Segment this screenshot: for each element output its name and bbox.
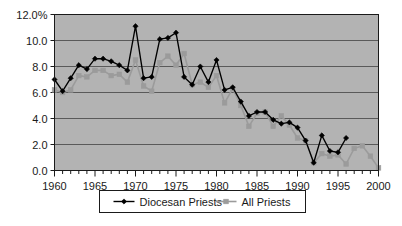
data-point-marker xyxy=(93,68,98,73)
legend-label: Diocesan Priests xyxy=(140,196,223,208)
x-tick-label: 1970 xyxy=(123,180,147,192)
y-tick-label: 12.0% xyxy=(16,9,47,21)
x-tick-label: 1985 xyxy=(245,180,269,192)
chart-container: 12.0%10.08.06.04.02.00.0 196019651970197… xyxy=(0,0,402,226)
data-point-marker xyxy=(352,146,357,151)
y-tick-label: 0.0 xyxy=(32,165,47,177)
line-chart: 12.0%10.08.06.04.02.00.0 196019651970197… xyxy=(0,0,402,226)
data-point-marker xyxy=(149,89,154,94)
y-tick-label: 2.0 xyxy=(32,139,47,151)
x-tick-label: 1960 xyxy=(42,180,66,192)
data-point-marker xyxy=(344,162,349,167)
y-tick-label: 8.0 xyxy=(32,61,47,73)
y-tick-label: 10.0 xyxy=(26,35,47,47)
x-tick-label: 1995 xyxy=(326,180,350,192)
data-point-marker xyxy=(85,75,90,80)
data-point-marker xyxy=(328,154,333,159)
y-tick-label: 6.0 xyxy=(32,87,47,99)
x-tick-label: 1965 xyxy=(83,180,107,192)
x-tick-label: 1975 xyxy=(164,180,188,192)
data-point-marker xyxy=(198,80,203,85)
data-point-marker xyxy=(68,88,73,93)
y-tick-label: 4.0 xyxy=(32,113,47,125)
data-point-marker xyxy=(295,136,300,141)
data-point-marker xyxy=(141,84,146,89)
data-point-marker xyxy=(77,73,82,78)
data-point-marker xyxy=(279,114,284,119)
data-point-marker xyxy=(368,154,373,159)
data-point-marker xyxy=(101,68,106,73)
data-point-marker xyxy=(133,58,138,63)
x-tick-label: 1990 xyxy=(285,180,309,192)
data-point-marker xyxy=(271,124,276,129)
data-point-marker xyxy=(117,72,122,77)
data-point-marker xyxy=(224,199,229,204)
data-point-marker xyxy=(125,80,130,85)
data-point-marker xyxy=(109,73,114,78)
chart-legend: Diocesan PriestsAll Priests xyxy=(100,191,306,213)
data-point-marker xyxy=(247,124,252,129)
data-point-marker xyxy=(182,51,187,56)
data-point-marker xyxy=(320,151,325,156)
data-point-marker xyxy=(206,85,211,90)
data-point-marker xyxy=(222,101,227,106)
data-point-marker xyxy=(214,73,219,78)
data-point-marker xyxy=(166,54,171,59)
x-axis-tick-labels: 196019651970197519801985199019952000 xyxy=(42,180,390,192)
legend-label: All Priests xyxy=(242,196,291,208)
x-tick-label: 2000 xyxy=(366,180,390,192)
data-point-marker xyxy=(174,63,179,68)
x-tick-label: 1980 xyxy=(204,180,228,192)
data-point-marker xyxy=(158,60,163,65)
data-point-marker xyxy=(360,144,365,149)
